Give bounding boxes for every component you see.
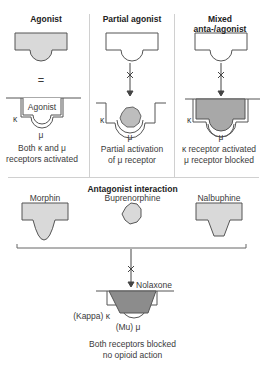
kappa-label-2: κ [97,115,107,125]
panel-title-mixed-line1: Mixed [180,14,260,24]
caption-agonist-line2: receptors activated [4,154,80,165]
drug-morphin: Morphin [15,193,75,203]
panel-title-agonist: Agonist [10,14,82,24]
nolaxone-label: Nolaxone [136,280,176,290]
drug-buprenorphine: Buprenorphine [95,193,170,203]
arrow-mixed [218,63,224,96]
partial-agonist-molecule [106,33,158,61]
arrow-partial [127,63,133,96]
kappa-label-antagonist: (Kappa) κ [70,311,110,321]
mu-label-1: μ [36,130,46,140]
morphin-molecule [22,203,68,240]
kappa-label-3: κ [184,115,194,125]
equals-sign: = [31,75,51,85]
mu-label-3: μ [216,132,226,142]
partial-agonist-bound [120,107,141,127]
arrow-antagonist [128,249,134,287]
caption-mixed-line1: κ receptor activated [176,144,262,155]
agonist-bound-label: Agonist [23,102,61,112]
mu-label-antagonist: (Mu) μ [108,322,148,332]
kappa-label-1: κ [10,114,20,124]
mu-label-2: μ [125,132,135,142]
caption-partial-line2: of μ receptor [92,155,172,166]
nalbuphine-molecule [196,203,242,236]
drug-nalbuphine: Nalbuphine [189,193,249,203]
caption-antagonist-line2: no opioid action [80,350,185,361]
caption-partial-line1: Partial activation [92,144,172,155]
caption-agonist-line1: Both κ and μ [4,143,80,154]
buprenorphine-molecule [122,203,141,224]
agonist-molecule [15,33,67,61]
panel-title-partial-agonist: Partial agonist [92,14,172,24]
caption-mixed-line2: μ receptor blocked [176,155,262,166]
caption-antagonist-line1: Both receptors blocked [80,339,185,350]
mixed-molecule [195,33,247,61]
bracket [17,244,246,248]
panel-title-mixed-line2: anta-/agonist [180,24,260,34]
